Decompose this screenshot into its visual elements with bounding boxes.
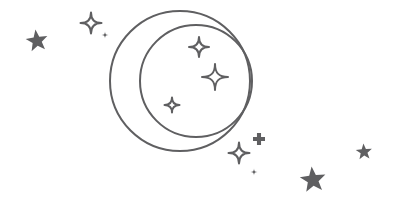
moon-and-stars-illustration	[0, 0, 397, 214]
illustration-svg	[0, 0, 397, 214]
tiny-sparkle-dot-bottom-cluster	[251, 169, 258, 176]
five-point-star-filled-far-right	[355, 143, 372, 159]
moon-outer-circle	[110, 11, 250, 151]
crescent-moon	[110, 11, 252, 151]
four-point-plus-filled-bottom-cluster	[253, 133, 265, 145]
tiny-sparkle-dot-top-left	[102, 32, 109, 39]
four-point-sparkle-bottom-cluster	[229, 143, 250, 164]
five-point-star-filled-left	[25, 28, 50, 52]
four-point-sparkle-moon-upper	[189, 37, 209, 57]
star-field	[25, 13, 373, 193]
four-point-sparkle-moon-middle	[202, 64, 228, 90]
moon-inner-circle	[140, 25, 252, 137]
five-point-star-filled-bottom-right	[299, 165, 327, 192]
four-point-sparkle-outline-top-left	[81, 13, 102, 34]
four-point-sparkle-moon-lower	[165, 98, 180, 113]
